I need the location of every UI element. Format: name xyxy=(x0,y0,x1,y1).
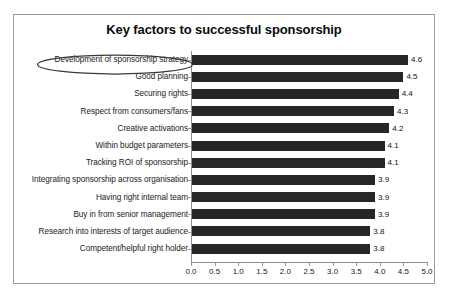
category-label: Integrating sponsorship across organisat… xyxy=(14,175,188,184)
category-label: Having right internal team xyxy=(14,193,188,202)
x-axis-tick xyxy=(333,263,334,266)
category-label: Development of sponsorship strategy xyxy=(14,55,188,64)
category-label: Research into interests of target audien… xyxy=(14,227,188,236)
bar-track: 4.1 xyxy=(191,137,427,154)
bar xyxy=(191,192,375,202)
bar xyxy=(191,123,389,133)
bar-value-label: 4.4 xyxy=(402,89,413,98)
category-label: Tracking ROI of sponsorship xyxy=(14,158,188,167)
bar-value-label: 4.3 xyxy=(397,107,408,116)
x-axis-tick-label: 4.5 xyxy=(390,267,416,276)
y-axis-tick xyxy=(188,94,191,95)
y-axis-tick xyxy=(188,197,191,198)
bar-row: Competent/helpful right holder3.8 xyxy=(14,240,436,257)
y-axis-tick xyxy=(188,214,191,215)
x-axis-tick-label: 3.0 xyxy=(320,267,346,276)
bar xyxy=(191,226,370,236)
bar-row: Integrating sponsorship across organisat… xyxy=(14,171,436,188)
bar-row: Securing rights4.4 xyxy=(14,85,436,102)
bar-row: Creative activations4.2 xyxy=(14,120,436,137)
bar xyxy=(191,209,375,219)
category-label: Creative activations xyxy=(14,124,188,133)
bar-row: Development of sponsorship strategy4.6 xyxy=(14,51,436,68)
bar-value-label: 4.6 xyxy=(411,55,422,64)
bar xyxy=(191,72,403,82)
x-axis-tick-label: 4.0 xyxy=(367,267,393,276)
y-axis-tick xyxy=(188,128,191,129)
bar-value-label: 3.9 xyxy=(378,175,389,184)
y-axis-tick xyxy=(188,111,191,112)
y-axis-tick xyxy=(188,180,191,181)
bar-row: Respect from consumers/fans4.3 xyxy=(14,103,436,120)
bar-value-label: 3.8 xyxy=(373,244,384,253)
bar-track: 4.5 xyxy=(191,68,427,85)
bar-value-label: 3.8 xyxy=(373,227,384,236)
bar-row: Buy in from senior management3.9 xyxy=(14,206,436,223)
bar xyxy=(191,141,385,151)
plot-area: Development of sponsorship strategy4.6Go… xyxy=(14,51,436,261)
bar xyxy=(191,158,385,168)
bar-row: Having right internal team3.9 xyxy=(14,189,436,206)
x-axis-tick-label: 0.0 xyxy=(178,267,204,276)
bar-value-label: 4.5 xyxy=(406,72,417,81)
x-axis-tick-label: 2.5 xyxy=(296,267,322,276)
category-label: Respect from consumers/fans xyxy=(14,107,188,116)
x-axis-tick-label: 3.5 xyxy=(343,267,369,276)
x-axis-tick xyxy=(309,263,310,266)
x-axis-tick xyxy=(215,263,216,266)
x-axis-tick xyxy=(380,263,381,266)
x-axis-tick-label: 1.0 xyxy=(225,267,251,276)
y-axis-tick xyxy=(188,77,191,78)
bar xyxy=(191,106,394,116)
bar-track: 4.2 xyxy=(191,120,427,137)
x-axis-tick xyxy=(285,263,286,266)
category-label: Competent/helpful right holder xyxy=(14,244,188,253)
bar-track: 3.9 xyxy=(191,189,427,206)
x-axis-tick-label: 1.5 xyxy=(249,267,275,276)
x-axis-tick xyxy=(238,263,239,266)
y-axis-tick xyxy=(188,146,191,147)
bar-track: 4.6 xyxy=(191,51,427,68)
category-label: Buy in from senior management xyxy=(14,210,188,219)
x-axis-tick xyxy=(356,263,357,266)
bar-row: Within budget parameters4.1 xyxy=(14,137,436,154)
bar-track: 4.4 xyxy=(191,85,427,102)
bar-track: 3.8 xyxy=(191,240,427,257)
bar-value-label: 3.9 xyxy=(378,193,389,202)
x-axis-tick-label: 0.5 xyxy=(202,267,228,276)
bar xyxy=(191,244,370,254)
bar-value-label: 4.1 xyxy=(388,158,399,167)
bar xyxy=(191,175,375,185)
bar-row: Good planning4.5 xyxy=(14,68,436,85)
bar-track: 3.8 xyxy=(191,223,427,240)
bar xyxy=(191,89,399,99)
bar-row: Tracking ROI of sponsorship4.1 xyxy=(14,154,436,171)
bar-value-label: 4.1 xyxy=(388,141,399,150)
chart-title: Key factors to successful sponsorship xyxy=(14,22,434,37)
y-axis-tick xyxy=(188,163,191,164)
chart-frame: Key factors to successful sponsorship De… xyxy=(13,14,435,284)
x-axis-tick xyxy=(262,263,263,266)
bar-track: 4.3 xyxy=(191,103,427,120)
category-label: Securing rights xyxy=(14,89,188,98)
x-axis-tick xyxy=(403,263,404,266)
bar-track: 4.1 xyxy=(191,154,427,171)
category-label: Good planning xyxy=(14,72,188,81)
y-axis-tick xyxy=(188,60,191,61)
category-label: Within budget parameters xyxy=(14,141,188,150)
y-axis-tick xyxy=(188,232,191,233)
y-axis-tick xyxy=(188,249,191,250)
bar xyxy=(191,55,408,65)
x-axis-tick xyxy=(191,263,192,266)
x-axis-tick-label: 2.0 xyxy=(272,267,298,276)
y-axis-line xyxy=(191,51,192,262)
x-axis-tick xyxy=(427,263,428,266)
bar-track: 3.9 xyxy=(191,206,427,223)
bar-track: 3.9 xyxy=(191,171,427,188)
bar-value-label: 3.9 xyxy=(378,210,389,219)
bar-value-label: 4.2 xyxy=(392,124,403,133)
bar-row: Research into interests of target audien… xyxy=(14,223,436,240)
x-axis-tick-label: 5.0 xyxy=(414,267,440,276)
